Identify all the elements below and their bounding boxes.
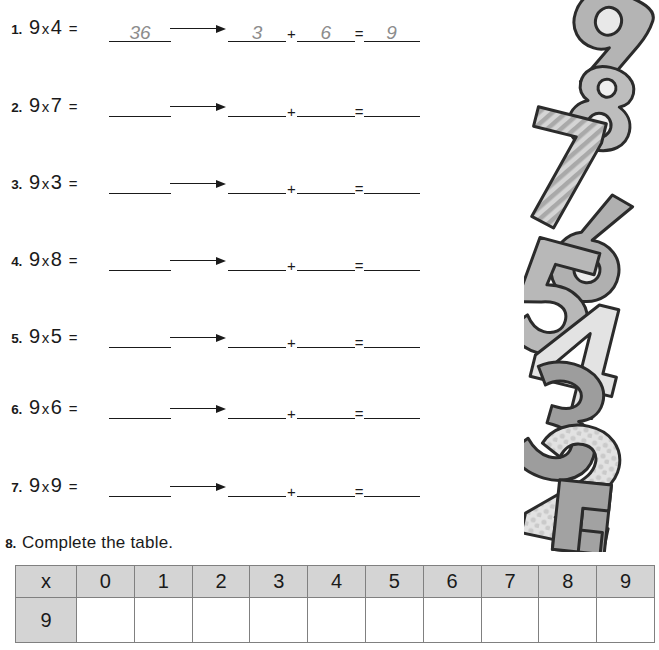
right-arrow-icon xyxy=(170,179,228,189)
table-answer-cell[interactable] xyxy=(423,598,481,643)
digit-7-shape xyxy=(524,107,606,235)
table-answer-cell[interactable] xyxy=(539,598,597,643)
stacked-numbers-illustration xyxy=(524,0,659,552)
plus-symbol: + xyxy=(286,334,297,351)
digit-2-shape xyxy=(524,417,628,550)
plus-symbol: + xyxy=(286,180,297,197)
equals-symbol: = xyxy=(355,334,364,351)
equals-symbol: = xyxy=(69,175,78,192)
equals-symbol: = xyxy=(355,405,364,422)
product-answer-group xyxy=(105,400,171,423)
problem-row: 1. 9x4 = 36 3+6=9 xyxy=(0,16,430,50)
tens-blank[interactable] xyxy=(228,329,286,348)
ones-blank[interactable] xyxy=(297,252,355,271)
ones-blank[interactable] xyxy=(297,98,355,117)
sum-blank[interactable] xyxy=(364,252,420,271)
factor-a: 9 xyxy=(29,474,41,496)
problem-expression: 9x7 = xyxy=(29,94,78,117)
task-8: 8. Complete the table. xyxy=(2,533,173,553)
problem-expression: 9x8 = xyxy=(29,248,78,271)
digit-5-shape xyxy=(524,236,606,363)
factor-a: 9 xyxy=(29,16,41,38)
sum-blank[interactable] xyxy=(364,329,420,348)
plus-symbol: + xyxy=(286,25,297,42)
problem-row: 5. 9x5 = += xyxy=(0,325,430,359)
product-answer-group: 36 xyxy=(105,23,171,43)
table-header-cell: 4 xyxy=(308,566,366,598)
problem-number: 4. xyxy=(0,254,22,269)
arrow-shaft xyxy=(170,183,218,184)
table-header-cell: 8 xyxy=(539,566,597,598)
table-answer-cell[interactable] xyxy=(365,598,423,643)
product-blank[interactable] xyxy=(109,98,171,117)
problem-expression: 9x6 = xyxy=(29,396,78,419)
factor-b: 5 xyxy=(51,325,63,347)
problem-row: 3. 9x3 = += xyxy=(0,171,430,205)
digit-4-shape xyxy=(524,293,632,422)
tens-blank[interactable] xyxy=(228,400,286,419)
table-row: 9 xyxy=(16,598,655,643)
product-answer-group xyxy=(105,175,171,198)
problem-number: 7. xyxy=(0,480,22,495)
ones-blank[interactable] xyxy=(297,329,355,348)
factor-a: 9 xyxy=(29,94,41,116)
arrow-shaft xyxy=(170,408,218,409)
problem-row: 7. 9x9 = += xyxy=(0,474,430,508)
problem-expression: 9x4 = xyxy=(29,16,78,39)
ones-blank[interactable]: 6 xyxy=(297,23,355,42)
sum-blank[interactable] xyxy=(364,400,420,419)
problem-row: 4. 9x8 = += xyxy=(0,248,430,282)
table-answer-cell[interactable] xyxy=(481,598,539,643)
arrow-shaft xyxy=(170,486,218,487)
sum-blank[interactable] xyxy=(364,478,420,497)
table-answer-cell[interactable] xyxy=(308,598,366,643)
tens-blank[interactable]: 3 xyxy=(228,23,286,42)
arrow-head xyxy=(216,103,226,111)
product-blank[interactable] xyxy=(109,252,171,271)
table-answer-cell[interactable] xyxy=(134,598,192,643)
right-arrow-icon xyxy=(170,482,228,492)
ones-blank[interactable] xyxy=(297,175,355,194)
arrow-shaft xyxy=(170,106,218,107)
product-blank[interactable] xyxy=(109,478,171,497)
table-answer-cell[interactable] xyxy=(77,598,135,643)
equals-symbol: = xyxy=(355,25,364,42)
problem-expression: 9x3 = xyxy=(29,171,78,194)
ones-blank[interactable] xyxy=(297,400,355,419)
table-answer-cell[interactable] xyxy=(192,598,250,643)
multiply-symbol: x xyxy=(41,98,51,115)
digit-1-shape xyxy=(552,480,611,552)
right-arrow-icon xyxy=(170,404,228,414)
decomposition-group: += xyxy=(228,252,420,275)
product-blank[interactable] xyxy=(109,329,171,348)
tens-blank[interactable] xyxy=(228,252,286,271)
factor-a: 9 xyxy=(29,248,41,270)
tens-blank[interactable] xyxy=(228,478,286,497)
tens-blank[interactable] xyxy=(228,175,286,194)
sum-blank[interactable]: 9 xyxy=(364,23,420,42)
tens-blank[interactable] xyxy=(228,98,286,117)
right-arrow-icon xyxy=(170,256,228,266)
product-answer-group xyxy=(105,252,171,275)
equals-symbol: = xyxy=(355,257,364,274)
plus-symbol: + xyxy=(286,103,297,120)
arrow-shaft xyxy=(170,260,218,261)
sum-blank[interactable] xyxy=(364,175,420,194)
product-blank[interactable] xyxy=(109,175,171,194)
equals-symbol: = xyxy=(355,103,364,120)
table-answer-cell[interactable] xyxy=(597,598,655,643)
ones-blank[interactable] xyxy=(297,478,355,497)
sum-blank[interactable] xyxy=(364,98,420,117)
arrow-head xyxy=(216,25,226,33)
factor-b: 3 xyxy=(51,171,63,193)
equals-symbol: = xyxy=(69,478,78,495)
factor-b: 6 xyxy=(51,396,63,418)
table-header-cell: 1 xyxy=(134,566,192,598)
multiply-symbol: x xyxy=(41,20,51,37)
product-blank[interactable]: 36 xyxy=(109,23,171,42)
product-blank[interactable] xyxy=(109,400,171,419)
digit-6-shape xyxy=(546,187,634,307)
table-answer-cell[interactable] xyxy=(250,598,308,643)
problem-number: 8. xyxy=(2,536,16,551)
multiply-symbol: x xyxy=(41,252,51,269)
